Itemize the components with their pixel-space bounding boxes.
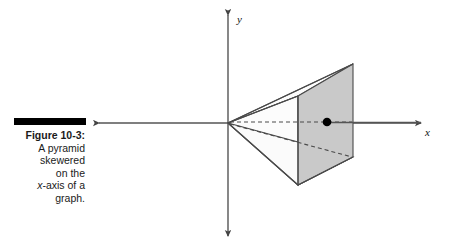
pyramid-group <box>228 64 353 185</box>
x-axis-label: x <box>425 126 430 138</box>
y-axis-label: y <box>237 13 242 25</box>
figure-page: Figure 10-3: A pyramid skewered on the x… <box>0 0 458 251</box>
axis-point-marker <box>323 118 332 127</box>
pyramid-graph <box>0 0 458 251</box>
